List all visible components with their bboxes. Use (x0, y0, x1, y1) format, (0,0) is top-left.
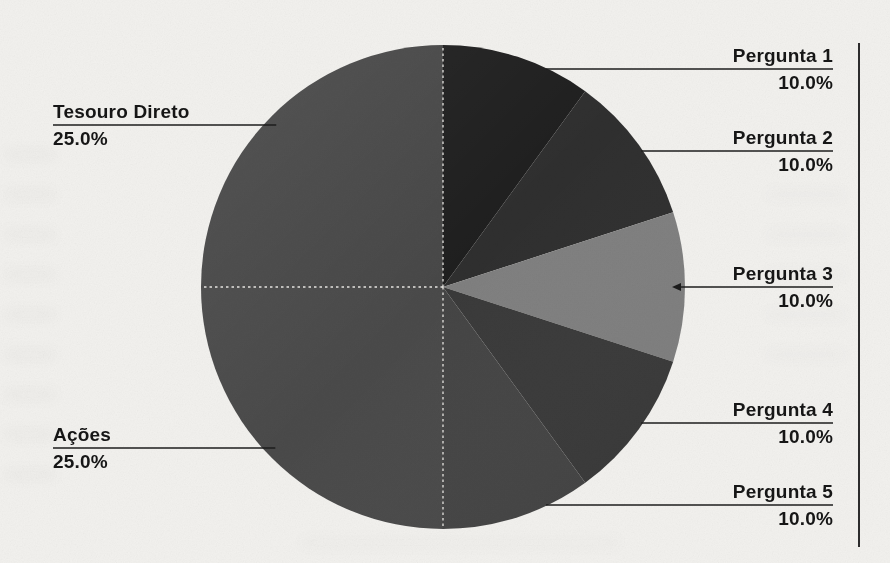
pie-chart (0, 0, 890, 563)
page-edge-line (858, 43, 860, 547)
scan-grain (0, 0, 890, 563)
scanned-pie-chart-page: Pergunta 1 10.0% Pergunta 2 10.0% Pergun… (0, 0, 890, 563)
